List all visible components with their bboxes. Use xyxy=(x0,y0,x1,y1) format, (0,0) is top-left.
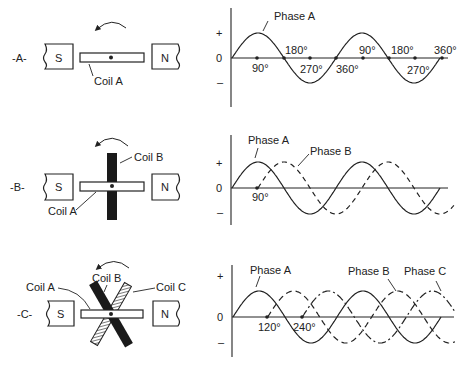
phase-b-leader xyxy=(388,279,396,291)
panel-b-generator: -B- S N Coil B Coil A xyxy=(10,138,180,220)
y-tick-plus: + xyxy=(216,27,222,39)
chart-a: + 0 – 90° 180° 270° 360° 90° 180° 270° 3… xyxy=(216,8,457,107)
label-90b: 90° xyxy=(359,44,376,56)
y-tick-minus: – xyxy=(217,206,224,218)
pivot-dot xyxy=(109,56,113,60)
label-90: 90° xyxy=(252,191,269,203)
phase-c-leader xyxy=(436,281,441,291)
rotation-arrow-icon xyxy=(98,262,129,269)
phase-b-label: Phase B xyxy=(348,265,390,277)
phase-a-leader xyxy=(255,148,258,158)
label-360: 360° xyxy=(336,63,359,75)
panel-label-b: -B- xyxy=(10,181,25,193)
phase-c-label: Phase C xyxy=(404,265,446,277)
label-180: 180° xyxy=(285,44,308,56)
coil-b-label: Coil B xyxy=(134,151,163,163)
south-magnet: S xyxy=(44,44,74,69)
coil-a-label: Coil A xyxy=(26,281,55,293)
label-120: 120° xyxy=(258,321,281,333)
rotation-arrow-icon xyxy=(97,22,126,29)
south-magnet: S xyxy=(44,174,74,200)
marker-120 xyxy=(265,315,269,319)
coil-a-leader xyxy=(76,192,96,210)
phase-a-leader xyxy=(263,21,268,31)
phase-a-label: Phase A xyxy=(274,10,316,22)
label-270b: 270° xyxy=(407,64,430,76)
panel-a-generator: -A- S N Coil A xyxy=(12,22,180,87)
rotation-arrow-icon xyxy=(97,138,128,146)
coil-c-leader xyxy=(133,288,155,292)
y-tick-minus: – xyxy=(218,336,225,348)
label-360b: 360° xyxy=(434,44,457,56)
y-tick-zero: 0 xyxy=(217,311,223,323)
phase-a-leader xyxy=(256,276,260,287)
coil-a-label: Coil A xyxy=(48,205,77,217)
label-270: 270° xyxy=(300,63,323,75)
panel-label-c: -C- xyxy=(17,308,33,320)
south-label: S xyxy=(57,308,64,320)
south-label: S xyxy=(55,181,62,193)
y-tick-zero: 0 xyxy=(216,52,222,64)
phase-a-label: Phase A xyxy=(250,264,292,276)
y-tick-zero: 0 xyxy=(216,182,222,194)
coil-a-label: Coil A xyxy=(94,75,123,87)
north-magnet: N xyxy=(152,174,180,200)
y-tick-plus: + xyxy=(217,270,223,282)
north-magnet: N xyxy=(153,301,180,326)
y-tick-minus: – xyxy=(217,76,224,88)
south-label: S xyxy=(55,52,62,64)
y-tick-plus: + xyxy=(216,157,222,169)
marker-240 xyxy=(300,315,304,319)
coil-c-label: Coil C xyxy=(156,281,186,293)
panel-label-a: -A- xyxy=(12,52,27,64)
north-label: N xyxy=(161,181,169,193)
north-label: N xyxy=(161,308,169,320)
chart-c: + 0 – 120° 240° Phase A Phase B Phase C xyxy=(217,264,455,357)
pivot-dot xyxy=(110,184,114,188)
coil-b-leader xyxy=(104,285,107,292)
north-magnet: N xyxy=(152,44,180,69)
south-magnet: S xyxy=(47,301,75,326)
panel-c-generator: -C- S N Coil B Coil A Coil C xyxy=(17,262,186,348)
label-240: 240° xyxy=(293,321,316,333)
coil-b-leader xyxy=(120,157,132,163)
phase-b-label: Phase B xyxy=(310,145,352,157)
label-180b: 180° xyxy=(391,44,414,56)
generator-phase-diagram: -A- S N Coil A + 0 – 90° xyxy=(0,0,468,369)
pivot-dot xyxy=(109,312,113,316)
coil-a-leader xyxy=(89,64,93,76)
marker-90 xyxy=(255,186,259,190)
phase-a-label: Phase A xyxy=(248,134,290,146)
chart-b: + 0 – 90° Phase A Phase B xyxy=(216,134,454,225)
north-label: N xyxy=(161,52,169,64)
phase-b-leader xyxy=(298,154,309,166)
coil-b-label: Coil B xyxy=(92,272,121,284)
label-90: 90° xyxy=(252,62,269,74)
